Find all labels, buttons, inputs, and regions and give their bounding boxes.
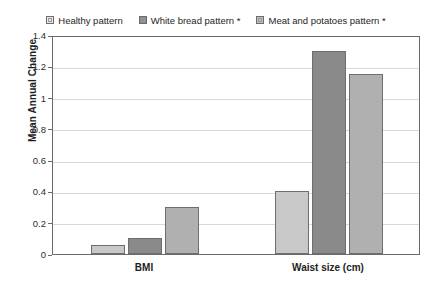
y-tick-mark [48, 255, 52, 256]
y-tick-label: 0.4 [6, 187, 46, 197]
legend-swatch-icon [139, 16, 147, 24]
y-tick-mark [48, 67, 52, 68]
y-tick-label: 1.2 [6, 62, 46, 72]
bar [128, 238, 162, 254]
y-tick-label: 0.2 [6, 219, 46, 229]
y-tick-label: 1 [6, 94, 46, 104]
bar-chart: Healthy pattern White bread pattern * Me… [0, 0, 432, 290]
legend-item-white-bread-pattern: White bread pattern * [139, 15, 241, 26]
legend-item-healthy-pattern: Healthy pattern [46, 15, 122, 26]
legend-swatch-icon [256, 16, 264, 24]
bar [312, 51, 346, 254]
y-tick-mark [48, 36, 52, 37]
legend-swatch-icon [46, 16, 54, 24]
legend-label: Meat and potatoes pattern * [268, 15, 385, 26]
x-category-label: BMI [64, 262, 224, 274]
legend-item-meat-and-potatoes-pattern: Meat and potatoes pattern * [256, 15, 385, 26]
y-tick-mark [48, 192, 52, 193]
y-tick-label: 1.4 [6, 31, 46, 41]
y-tick-label: 0 [6, 250, 46, 260]
chart-legend: Healthy pattern White bread pattern * Me… [0, 12, 432, 28]
x-category-label: Waist size (cm) [248, 262, 408, 274]
bar [165, 207, 199, 254]
y-tick-label: 0.8 [6, 125, 46, 135]
bar [349, 74, 383, 254]
legend-label: White bread pattern * [151, 15, 241, 26]
plot-area [52, 36, 420, 255]
y-tick-mark [48, 129, 52, 130]
y-tick-mark [48, 98, 52, 99]
y-tick-mark [48, 223, 52, 224]
y-tick-label: 0.6 [6, 156, 46, 166]
bar [275, 191, 309, 254]
y-tick-mark [48, 161, 52, 162]
bar [91, 245, 125, 254]
legend-label: Healthy pattern [58, 15, 122, 26]
y-gridline [53, 68, 419, 69]
